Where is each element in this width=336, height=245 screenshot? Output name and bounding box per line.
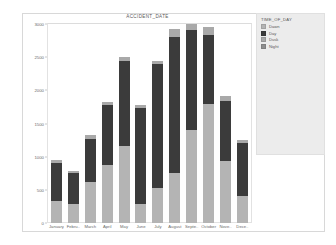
bar-segment[interactable] xyxy=(102,105,113,165)
x-axis-tick-label: Febru.. xyxy=(65,224,81,240)
bar-column[interactable] xyxy=(51,24,62,223)
bar-segment[interactable] xyxy=(85,182,96,223)
x-axis-tick-label: August xyxy=(167,224,183,240)
x-axis-tick-label: July xyxy=(150,224,166,240)
legend-item[interactable]: Dawn xyxy=(261,24,320,29)
bar-column[interactable] xyxy=(169,24,180,223)
legend-item[interactable]: Night xyxy=(261,44,320,49)
bar-segment[interactable] xyxy=(68,204,79,223)
bar-column[interactable] xyxy=(186,24,197,223)
legend-item[interactable]: Day xyxy=(261,31,320,36)
bar-segment[interactable] xyxy=(203,35,214,104)
x-axis-tick-label: January xyxy=(48,224,64,240)
y-axis-tick-label: 0 xyxy=(42,221,44,226)
bar-segment[interactable] xyxy=(135,204,146,223)
y-axis-tick-label: 3000 xyxy=(34,22,44,27)
x-axis: JanuaryFebru..MarchAprilMayJuneJulyAugus… xyxy=(48,224,251,240)
legend-color-swatch xyxy=(261,44,266,49)
bar-column[interactable] xyxy=(102,24,113,223)
legend-item-label: Day xyxy=(269,31,276,36)
y-axis: Number of Records 0500100015002000250030… xyxy=(25,23,47,224)
bar-column[interactable] xyxy=(85,24,96,223)
bar-column[interactable] xyxy=(203,24,214,223)
bar-column[interactable] xyxy=(152,24,163,223)
legend-color-swatch xyxy=(261,31,266,36)
bar-segment[interactable] xyxy=(119,146,130,223)
bar-segment[interactable] xyxy=(119,61,130,147)
legend-color-swatch xyxy=(261,37,266,42)
x-axis-tick-label: April xyxy=(99,224,115,240)
legend-color-swatch xyxy=(261,24,266,29)
chart-title: ACCIDENT_DATE xyxy=(60,14,235,19)
x-axis-tick-label: June xyxy=(133,224,149,240)
x-axis-tick-label: May xyxy=(116,224,132,240)
bar-series-group xyxy=(48,24,251,223)
y-axis-tick-label: 1000 xyxy=(34,154,44,159)
bar-segment[interactable] xyxy=(152,64,163,187)
bar-column[interactable] xyxy=(220,24,231,223)
bar-column[interactable] xyxy=(119,24,130,223)
bar-segment[interactable] xyxy=(203,104,214,223)
x-axis-tick-label: Septe.. xyxy=(184,224,200,240)
legend-item-label: Dusk xyxy=(269,37,278,42)
bar-column[interactable] xyxy=(135,24,146,223)
chart-screenshot: ACCIDENT_DATE Number of Records 05001000… xyxy=(0,0,336,245)
y-axis-tick-label: 1500 xyxy=(34,121,44,126)
bar-segment[interactable] xyxy=(203,27,214,35)
bar-segment[interactable] xyxy=(152,188,163,223)
legend-panel: TIME_OF_DAY DawnDayDuskNight xyxy=(256,13,325,155)
y-axis-tick-label: 2000 xyxy=(34,88,44,93)
x-axis-tick-label: March xyxy=(82,224,98,240)
bar-segment[interactable] xyxy=(51,201,62,223)
bar-segment[interactable] xyxy=(51,163,62,201)
bar-column[interactable] xyxy=(237,24,248,223)
x-axis-tick-label: October xyxy=(201,224,217,240)
x-axis-tick-label: Nove.. xyxy=(218,224,234,240)
bar-segment[interactable] xyxy=(169,37,180,173)
bar-segment[interactable] xyxy=(237,196,248,223)
legend-item-label: Night xyxy=(269,44,279,49)
bar-segment[interactable] xyxy=(85,139,96,181)
legend-items: DawnDayDuskNight xyxy=(261,24,320,49)
x-axis-tick-label: Dece.. xyxy=(234,224,250,240)
bar-segment[interactable] xyxy=(169,29,180,36)
bar-segment[interactable] xyxy=(135,108,146,204)
y-axis-tick-label: 2500 xyxy=(34,55,44,60)
bar-segment[interactable] xyxy=(186,30,197,130)
bar-segment[interactable] xyxy=(220,161,231,223)
legend-item-label: Dawn xyxy=(269,24,279,29)
bar-column[interactable] xyxy=(68,24,79,223)
legend-title: TIME_OF_DAY xyxy=(261,17,320,22)
bar-segment[interactable] xyxy=(186,130,197,223)
legend-item[interactable]: Dusk xyxy=(261,37,320,42)
bar-segment[interactable] xyxy=(102,165,113,223)
bar-segment[interactable] xyxy=(237,143,248,196)
bar-segment[interactable] xyxy=(169,173,180,223)
y-axis-tick-label: 500 xyxy=(37,187,44,192)
bar-segment[interactable] xyxy=(68,173,79,204)
bar-segment[interactable] xyxy=(220,101,231,161)
